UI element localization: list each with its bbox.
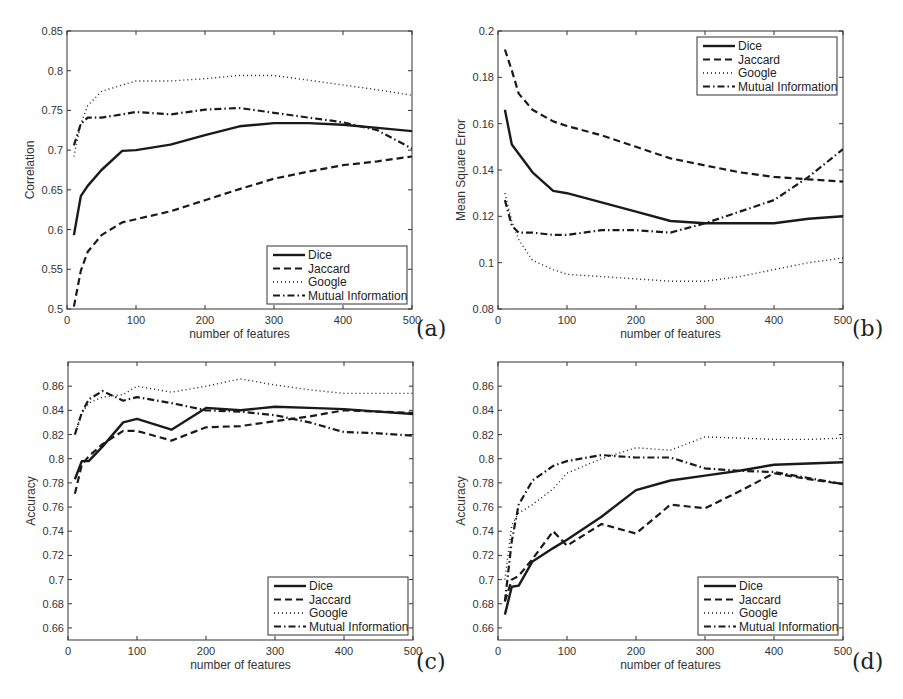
y-tick-label: 0.7 [479,574,494,586]
chart-b-plot: 0100200300400500number of features0.080.… [451,0,903,349]
y-tick-label: 0.78 [473,477,494,489]
legend-label-dice: Dice [309,579,333,593]
y-tick-label: 0.68 [473,598,494,610]
legend-label-jaccard: Jaccard [739,593,781,607]
chart-c-plot: 0100200300400500number of features0.660.… [0,349,451,699]
y-tick-label: 0.8 [48,65,63,77]
y-tick-label: 0.86 [473,380,494,392]
y-tick-label: 0.84 [43,404,64,416]
x-tick-label: 100 [558,645,576,657]
series-group [75,379,413,494]
panel-label-d: (d) [852,649,883,674]
series-line-google [75,379,413,435]
x-axis-title: number of features [620,658,721,672]
y-tick-label: 0.8 [479,453,494,465]
legend-label-mutual-information: Mutual Information [739,620,838,634]
y-tick-label: 0.12 [473,210,494,222]
x-tick-label: 0 [64,314,70,326]
series-line-mutual-information [74,108,412,149]
x-tick-label: 500 [834,314,852,326]
legend: DiceJaccardGoogleMutual Information [697,37,837,95]
y-tick-label: 0.14 [473,164,494,176]
x-tick-label: 100 [128,645,146,657]
series-line-google [505,437,843,580]
y-tick-label: 0.82 [473,429,494,441]
x-tick-label: 400 [334,314,352,326]
series-line-mutual-information [75,391,413,436]
panel-label-b: (b) [852,316,883,341]
x-tick-label: 200 [627,314,645,326]
y-tick-label: 0.72 [43,549,64,561]
x-tick-label: 0 [65,645,71,657]
legend-label-mutual-information: Mutual Information [738,80,837,94]
legend-label-google: Google [309,606,348,620]
chart-panel-d: 0100200300400500number of features0.660.… [451,349,902,698]
x-tick-label: 200 [196,314,214,326]
y-axis-title: Correlation [23,141,37,200]
y-tick-label: 0.68 [43,598,64,610]
x-tick-label: 300 [266,645,284,657]
y-axis-title: Mean Square Error [454,119,468,221]
legend-label-mutual-information: Mutual Information [309,620,408,634]
y-tick-label: 0.72 [473,549,494,561]
y-tick-label: 0.82 [43,429,64,441]
y-tick-label: 0.16 [473,118,494,130]
y-tick-label: 0.75 [42,104,63,116]
y-tick-label: 0.84 [473,404,494,416]
y-tick-label: 0.8 [49,453,64,465]
legend-label-mutual-information: Mutual Information [308,289,407,303]
panel-label-c: (c) [416,649,446,674]
legend-label-dice: Dice [739,579,763,593]
y-axis-title: Accuracy [24,476,38,525]
legend-label-jaccard: Jaccard [738,53,780,67]
y-tick-label: 0.66 [43,622,64,634]
legend-label-google: Google [738,66,777,80]
y-tick-label: 0.76 [43,501,64,513]
y-tick-label: 0.85 [42,25,63,37]
x-tick-label: 200 [627,645,645,657]
chart-panel-a: 0100200300400500number of features0.50.5… [0,0,451,349]
y-tick-label: 0.2 [479,25,494,37]
y-tick-label: 0.7 [49,574,64,586]
series-line-dice [75,407,413,480]
chart-panel-b: 0100200300400500number of features0.080.… [451,0,902,349]
x-tick-label: 300 [265,314,283,326]
x-tick-label: 400 [335,645,353,657]
legend-label-dice: Dice [738,39,762,53]
x-axis-title: number of features [190,658,291,672]
legend: DiceJaccardGoogleMutual Information [268,577,408,635]
x-tick-label: 300 [696,645,714,657]
legend-label-jaccard: Jaccard [308,262,350,276]
legend-label-dice: Dice [308,248,332,262]
legend-label-google: Google [308,275,347,289]
legend-label-jaccard: Jaccard [309,593,351,607]
x-tick-label: 500 [834,645,852,657]
y-tick-label: 0.86 [43,380,64,392]
panel-label-a: (a) [416,316,446,341]
y-tick-label: 0.5 [48,303,63,315]
x-tick-label: 100 [558,314,576,326]
series-line-google [74,76,412,157]
x-axis-title: number of features [189,327,290,341]
y-tick-label: 0.74 [473,525,494,537]
y-tick-label: 0.76 [473,501,494,513]
y-tick-label: 0.74 [43,525,64,537]
legend-label-google: Google [739,606,778,620]
legend: DiceJaccardGoogleMutual Information [267,246,407,304]
chart-panel-c: 0100200300400500number of features0.660.… [0,349,451,698]
y-tick-label: 0.1 [479,257,494,269]
y-tick-label: 0.78 [43,477,64,489]
y-tick-label: 0.6 [48,224,63,236]
x-tick-label: 100 [127,314,145,326]
chart-a-plot: 0100200300400500number of features0.50.5… [0,0,451,349]
y-tick-label: 0.18 [473,71,494,83]
x-axis-title: number of features [620,327,721,341]
x-tick-label: 200 [197,645,215,657]
series-line-google [505,193,843,281]
y-tick-label: 0.7 [48,144,63,156]
y-axis-title: Accuracy [454,476,468,525]
x-tick-label: 300 [696,314,714,326]
chart-d-plot: 0100200300400500number of features0.660.… [451,349,903,699]
x-tick-label: 400 [765,314,783,326]
legend: DiceJaccardGoogleMutual Information [698,577,838,635]
